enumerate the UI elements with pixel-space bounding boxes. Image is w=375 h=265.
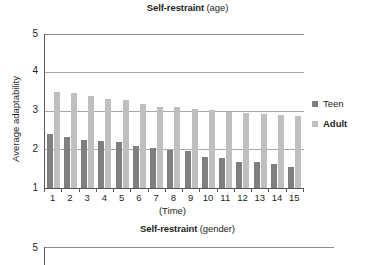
y-axis-label: Average adaptability — [0, 0, 9, 44]
bar-adult — [192, 109, 198, 188]
x-axis-line — [44, 188, 303, 189]
bar-teen — [64, 137, 70, 188]
chart-title-sub-2: (gender) — [197, 223, 235, 234]
bar-adult — [174, 107, 180, 188]
bar-teen — [185, 151, 191, 188]
bar-adult — [261, 114, 267, 188]
bar-adult — [226, 112, 232, 188]
legend: Teen Adult — [312, 98, 347, 138]
legend-item-teen: Teen — [312, 98, 347, 109]
x-tick-mark — [303, 188, 304, 192]
bar-adult — [54, 92, 60, 188]
legend-swatch-teen-icon — [312, 101, 318, 107]
bar-group-container — [45, 34, 304, 188]
y-tick-5-chart2: 5 — [16, 242, 38, 253]
y-tick-5: 5 — [16, 28, 38, 39]
bar-adult — [105, 99, 111, 188]
chart-title-gender: Self-restraint (gender) — [0, 215, 375, 235]
chart-title-age: Self-restraint (age) — [0, 0, 375, 14]
legend-label-adult: Adult — [323, 118, 347, 129]
bar-teen — [288, 167, 294, 188]
bar-teen — [202, 157, 208, 188]
bar-teen — [133, 146, 139, 188]
bar-adult — [71, 93, 77, 188]
bar-adult — [140, 104, 146, 188]
chart-title-sub: (age) — [204, 2, 228, 13]
legend-swatch-adult-icon — [312, 121, 318, 127]
bar-teen — [47, 134, 53, 188]
bar-adult — [243, 113, 249, 188]
bar-teen — [219, 158, 225, 188]
x-tick-label: 15 — [282, 192, 306, 203]
bar-teen — [236, 162, 242, 188]
bar-adult — [278, 115, 284, 188]
y-tick-3: 3 — [16, 104, 38, 115]
bar-adult — [295, 116, 301, 188]
chart-title-main-2: Self-restraint — [140, 223, 197, 234]
bar-teen — [167, 150, 173, 188]
bar-teen — [98, 141, 104, 188]
y-tick-4: 4 — [16, 65, 38, 76]
legend-label-teen: Teen — [323, 98, 344, 109]
plot-canvas — [44, 34, 303, 188]
y-tick-1: 1 — [16, 182, 38, 193]
bar-teen — [150, 148, 156, 188]
gridline-5-chart2 — [45, 247, 334, 248]
y-tick-2: 2 — [16, 143, 38, 154]
y-tick-mark-chart2 — [44, 248, 45, 252]
bar-teen — [81, 140, 87, 188]
bar-adult — [123, 100, 129, 188]
bar-teen — [271, 164, 277, 188]
bar-adult — [209, 110, 215, 188]
chart-self-restraint-gender: Self-restraint (gender) 5 — [0, 215, 375, 265]
plot-canvas-2 — [44, 247, 333, 265]
chart-self-restraint-age: Self-restraint (age) Average adaptabilit… — [0, 0, 375, 215]
chart-title-main: Self-restraint — [147, 2, 204, 13]
bar-teen — [116, 142, 122, 188]
bar-adult — [157, 107, 163, 188]
bar-adult — [88, 96, 94, 188]
legend-item-adult: Adult — [312, 118, 347, 129]
bar-teen — [254, 162, 260, 188]
